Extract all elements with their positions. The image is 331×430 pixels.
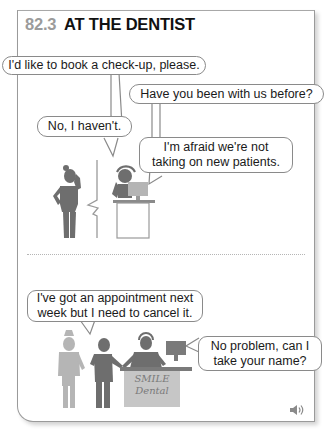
bubble-text: I'd like to book a check-up, please. [8, 58, 199, 73]
dark-patient-figure [90, 338, 123, 408]
phone-call-illustration [20, 160, 180, 246]
sign-line-1: SMILE [124, 373, 180, 385]
bubble-text-line: No problem, can I [211, 339, 310, 354]
speech-bubble-book-checkup: I'd like to book a check-up, please. [2, 56, 206, 75]
sign-line-2: Dental [124, 385, 180, 397]
bubble-text-line: I've got an appointment next [37, 291, 194, 306]
bubble-text: Have you been with us before? [140, 87, 312, 102]
section-divider [27, 254, 305, 255]
speech-bubble-cancel-appointment: I've got an appointment next week but I … [27, 290, 203, 322]
receptionist-with-headset-figure [112, 166, 155, 238]
smile-dental-sign: SMILE Dental [124, 373, 180, 397]
speech-bubble-no-havent: No, I haven't. [37, 116, 132, 137]
speaker-sound-icon[interactable] [289, 403, 305, 417]
dental-reception-illustration [50, 330, 200, 410]
bubble-text: No, I haven't. [48, 119, 121, 134]
woman-on-phone-figure [53, 165, 81, 238]
bubble-text-line: I'm afraid we're not [164, 140, 269, 155]
speech-bubble-been-before: Have you been with us before? [129, 84, 324, 104]
bubble-text-line: week but I need to cancel it. [38, 306, 193, 321]
speech-bubble-take-your-name: No problem, can I take your name? [198, 336, 322, 371]
light-patient-figure [58, 330, 85, 408]
bubble-text-line: take your name? [213, 354, 306, 369]
